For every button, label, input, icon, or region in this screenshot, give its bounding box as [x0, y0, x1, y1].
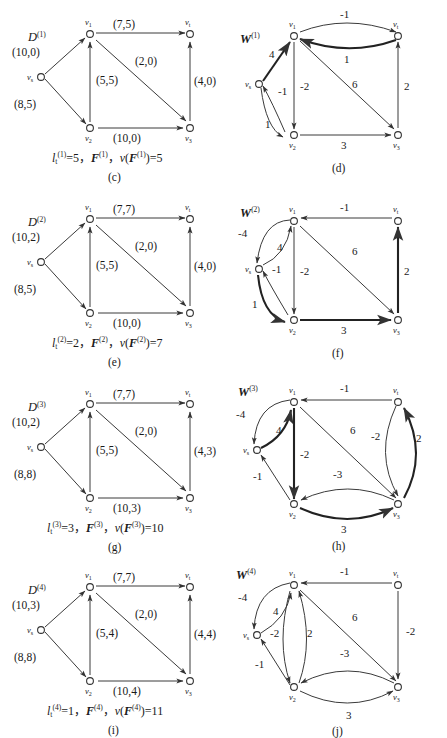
- node-s[interactable]: [256, 81, 263, 88]
- graph-label-W4: W(4): [236, 567, 256, 582]
- edge-weight-v1-v2: -2: [270, 627, 279, 639]
- figure-row-4: vs v1 v2 v3 vt D(4) (10,3) (8,8) (7,7) (…: [0, 553, 447, 738]
- edge-weight-v2-v3: (10,4): [113, 685, 141, 698]
- node-v3[interactable]: [187, 125, 194, 132]
- edge-weight-v1-v2: -2: [300, 265, 309, 277]
- edge-weight-v3-t: 2: [404, 265, 410, 277]
- edge-weight-v3-t: (4,0): [194, 260, 216, 273]
- vertex-label-v2: v2: [289, 140, 296, 151]
- node-v1[interactable]: [291, 399, 298, 406]
- node-v1[interactable]: [87, 584, 94, 591]
- node-v3[interactable]: [395, 317, 402, 324]
- node-t[interactable]: [395, 218, 402, 225]
- node-t[interactable]: [395, 582, 402, 589]
- node-s[interactable]: [38, 74, 45, 81]
- edge-v1-v3: [300, 226, 394, 314]
- edge-v2-v1: [299, 591, 307, 683]
- node-v3[interactable]: [395, 684, 402, 691]
- vertex-label-v1: v1: [85, 17, 92, 28]
- vertex-label-s: vs: [27, 257, 34, 268]
- edge-weight-v2-s: -1: [278, 85, 287, 97]
- edge-weight-v3-t: 2: [404, 80, 410, 92]
- edge-s-v2: [45, 632, 86, 677]
- caption-flow-4: lt(4)=1，F(4)，v(F(4))=11: [47, 703, 163, 719]
- node-v2[interactable]: [87, 678, 94, 685]
- edge-v1-s: [257, 220, 290, 263]
- residual-graph-4: vs v1 v2 v3 vt W(4) -4 4 -2 2 -1 -1 6 -2…: [228, 553, 447, 738]
- vertex-label-v3: v3: [393, 692, 400, 703]
- node-t[interactable]: [187, 31, 194, 38]
- node-v3[interactable]: [187, 310, 194, 317]
- edge-weight-v1-s: -4: [236, 408, 246, 420]
- vertex-label-v1: v1: [289, 204, 296, 215]
- node-v1[interactable]: [87, 401, 94, 408]
- vertex-label-s: vs: [243, 630, 250, 641]
- edge-v3-v2: [301, 671, 394, 683]
- edge-v3-t: [404, 408, 416, 498]
- node-t[interactable]: [395, 33, 402, 40]
- node-s[interactable]: [256, 266, 263, 273]
- vertex-label-v2: v2: [85, 686, 92, 697]
- vertex-label-v1: v1: [289, 19, 296, 30]
- edge-weight-v1-v2: -2: [300, 80, 309, 92]
- node-v2[interactable]: [291, 132, 298, 139]
- graph-label-D4: D(4): [27, 583, 46, 597]
- edge-weight-t-v1: 1: [344, 53, 350, 65]
- edge-weight-t-v1: -1: [340, 201, 349, 213]
- edge-weight-v1-v3: (2,0): [135, 240, 157, 253]
- node-s[interactable]: [254, 632, 261, 639]
- edge-weight-s-v1: 4: [269, 48, 275, 60]
- node-v1[interactable]: [291, 33, 298, 40]
- vertex-label-v3: v3: [185, 133, 192, 144]
- node-t[interactable]: [187, 584, 194, 591]
- figure-row-2: vs v1 v2 v3 vt D(2) (10,2) (8,5) (7,7) (…: [0, 185, 447, 370]
- vertex-label-s: vs: [27, 625, 34, 636]
- node-s[interactable]: [38, 627, 45, 634]
- edge-weight-v2-v3: (10,0): [113, 317, 141, 330]
- vertex-label-v3: v3: [185, 686, 192, 697]
- node-v2[interactable]: [291, 501, 298, 508]
- vertex-label-s: vs: [27, 442, 34, 453]
- node-v1[interactable]: [87, 216, 94, 223]
- edge-weight-v1-t: (7,5): [113, 18, 135, 31]
- graph-label-W1: W(1): [240, 31, 260, 46]
- edge-weight-v3-v2: -3: [333, 468, 343, 480]
- edge-weight-s-v1: 4: [273, 605, 279, 617]
- node-v3[interactable]: [395, 501, 402, 508]
- node-v1[interactable]: [291, 582, 298, 589]
- panel-flow-1: vs v1 v2 v3 vt D(1) (10,0) (8,5) (7,5) (…: [0, 0, 230, 185]
- node-v2[interactable]: [87, 125, 94, 132]
- vertex-label-v2: v2: [85, 318, 92, 329]
- edge-weight-v3-t: (4,4): [194, 628, 216, 641]
- node-t[interactable]: [187, 216, 194, 223]
- node-s[interactable]: [254, 447, 261, 454]
- edge-weight-s-v1: 4: [276, 424, 282, 436]
- edge-weight-v3-t: (4,0): [194, 75, 216, 88]
- vertex-label-v2: v2: [289, 692, 296, 703]
- node-t[interactable]: [395, 399, 402, 406]
- node-v1[interactable]: [291, 218, 298, 225]
- edge-weight-s-v2: 1: [252, 298, 258, 310]
- node-v2[interactable]: [291, 684, 298, 691]
- vertex-label-v3: v3: [185, 503, 192, 514]
- edge-v2-v3: [300, 691, 393, 703]
- node-v3[interactable]: [395, 132, 402, 139]
- edge-weight-v1-t: (7,7): [113, 203, 135, 216]
- node-s[interactable]: [38, 259, 45, 266]
- graph-label-D3: D(3): [27, 400, 46, 414]
- node-v2[interactable]: [291, 317, 298, 324]
- node-t[interactable]: [187, 401, 194, 408]
- node-v2[interactable]: [87, 310, 94, 317]
- edge-v1-v3: [300, 590, 396, 681]
- flow-graph-1: vs v1 v2 v3 vt D(1) (10,0) (8,5) (7,5) (…: [0, 0, 230, 185]
- edge-weight-v2-v1: (5,5): [96, 259, 118, 272]
- node-v3[interactable]: [187, 495, 194, 502]
- vertex-label-t: vt: [393, 385, 399, 396]
- edge-weight-v3-v2: -3: [340, 647, 350, 659]
- node-v1[interactable]: [87, 31, 94, 38]
- node-s[interactable]: [38, 444, 45, 451]
- graph-label-W3: W(3): [238, 384, 258, 399]
- edge-s-v2: [258, 275, 285, 322]
- node-v2[interactable]: [87, 495, 94, 502]
- node-v3[interactable]: [187, 678, 194, 685]
